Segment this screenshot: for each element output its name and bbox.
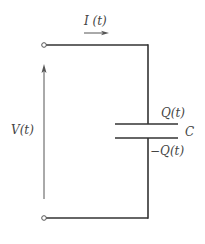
current-label: I (t) (83, 14, 107, 28)
capacitance-label: C (185, 125, 194, 139)
top-terminal (42, 43, 47, 48)
voltage-label: V(t) (11, 123, 34, 137)
charge-bottom-label: −Q(t) (150, 144, 184, 158)
charge-top-label: Q(t) (161, 106, 185, 120)
bottom-terminal (42, 216, 47, 221)
circuit-diagram: I (t) V(t) Q(t) C −Q(t) (0, 0, 205, 244)
